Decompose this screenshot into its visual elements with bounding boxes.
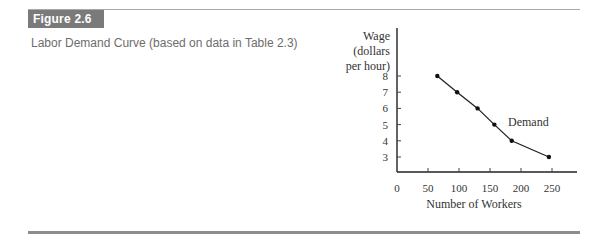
- data-point: [510, 139, 514, 143]
- x-axis-label: Number of Workers: [426, 197, 522, 211]
- labor-demand-chart: Wage(dollarsper hour)3456780501001502002…: [0, 0, 606, 238]
- x-tick-label: 200: [513, 182, 530, 194]
- data-point: [455, 90, 459, 94]
- x-tick-label: 0: [394, 182, 400, 194]
- x-tick-label: 150: [482, 182, 499, 194]
- data-point: [492, 122, 496, 126]
- y-axis-label: Wage: [363, 29, 390, 43]
- bottom-rule: [28, 231, 580, 234]
- x-tick-label: 50: [423, 182, 435, 194]
- y-tick-label: 3: [383, 151, 389, 163]
- demand-annotation: Demand: [508, 115, 549, 129]
- data-point: [435, 74, 439, 78]
- x-tick-label: 100: [451, 182, 468, 194]
- y-tick-label: 4: [383, 135, 389, 147]
- y-tick-label: 5: [383, 119, 389, 131]
- y-tick-label: 6: [383, 102, 389, 114]
- y-axis-label: (dollars: [353, 44, 390, 58]
- x-tick-label: 250: [544, 182, 561, 194]
- y-tick-label: 7: [383, 86, 389, 98]
- data-point: [547, 155, 551, 159]
- y-tick-label: 8: [383, 70, 389, 82]
- data-point: [475, 106, 479, 110]
